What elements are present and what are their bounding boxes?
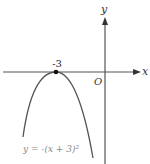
vertex-label: -3 — [52, 58, 62, 69]
parabola-diagram: x y O -3 y = -(x + 3)² — [0, 0, 150, 164]
equation-label: y = -(x + 3)² — [22, 144, 79, 154]
x-axis-label: x — [142, 65, 149, 78]
x-axis-arrow-icon — [133, 69, 141, 75]
y-axis-arrow-icon — [102, 17, 108, 25]
y-axis-label: y — [100, 3, 108, 16]
vertex-point — [54, 70, 59, 75]
origin-label: O — [94, 76, 102, 87]
